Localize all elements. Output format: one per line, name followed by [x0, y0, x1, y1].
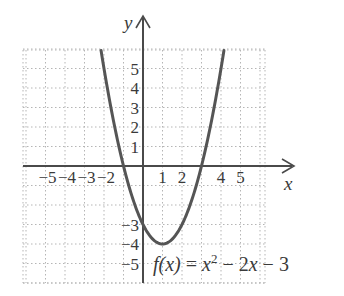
x-tick-label: −3: [77, 168, 95, 187]
y-tick-label: −4: [121, 235, 140, 254]
variable-x-2: x: [248, 253, 258, 275]
y-tick-label: 3: [131, 99, 140, 118]
x-tick-label: −5: [38, 168, 56, 187]
y-tick-label: 2: [131, 118, 140, 137]
x-tick-label: 2: [178, 168, 187, 187]
x-tick-label: 4: [217, 168, 226, 187]
y-tick-label: 4: [131, 79, 140, 98]
y-axis-label: y: [122, 12, 133, 33]
y-tick-label: 1: [131, 138, 140, 157]
term-minus-2: − 2: [217, 253, 248, 275]
x-tick-label: −2: [97, 168, 115, 187]
x-tick-label: −4: [58, 168, 77, 187]
variable-x: x: [201, 253, 211, 275]
y-tick-label: −5: [121, 255, 139, 274]
function-label: f(x) = x2 − 2x − 3: [153, 251, 289, 276]
function-name: f(x): [153, 253, 181, 276]
x-tick-labels: −5−4−3−21245: [38, 168, 244, 187]
x-tick-label: 1: [158, 168, 167, 187]
y-tick-label: 5: [131, 60, 140, 79]
function-graph: −5−4−3−21245 54321−3−4−5 y x f(x) = x2 −…: [0, 0, 344, 296]
x-tick-label: 5: [236, 168, 245, 187]
y-tick-label: −3: [121, 216, 139, 235]
x-axis-label: x: [283, 173, 293, 194]
term-minus-3: − 3: [258, 253, 289, 275]
equals-sign: =: [181, 253, 202, 275]
